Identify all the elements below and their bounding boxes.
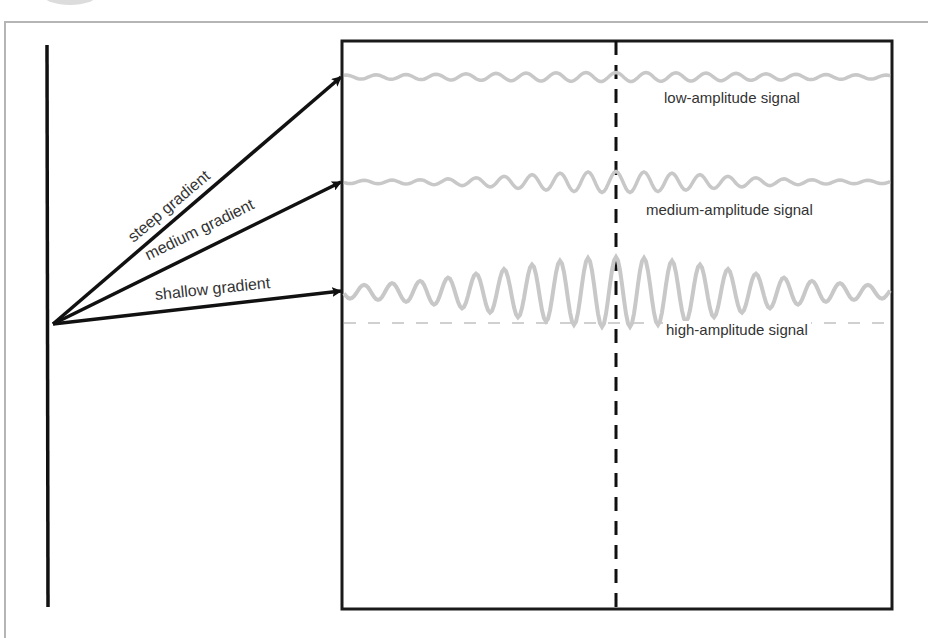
medium-amplitude-label: medium-amplitude signal xyxy=(646,201,813,218)
low-amplitude-label: low-amplitude signal xyxy=(664,89,800,106)
high-amplitude-label: high-amplitude signal xyxy=(663,321,811,338)
left-axis-line xyxy=(47,45,48,607)
diagram-canvas: steep gradient medium gradient shallow g… xyxy=(0,0,928,638)
medium-gradient-arrow xyxy=(53,182,341,324)
cropped-circle-decoration xyxy=(44,0,96,5)
